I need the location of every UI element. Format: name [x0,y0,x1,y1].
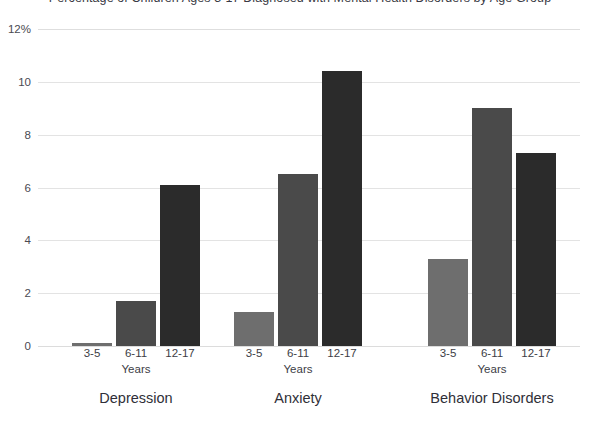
y-axis-tick-label: 12% [8,23,31,35]
age-tick-label: 3-5 [84,347,101,359]
bar [428,259,468,346]
y-axis-tick-label: 2 [25,287,31,299]
age-tick-label: 6-11 [125,347,147,359]
plot-area [38,29,580,346]
age-tick-label: 6-11 [287,347,309,359]
bar-chart: Percentage of Children Ages 3-17 Diagnos… [0,0,600,430]
group-label: Anxiety [274,390,322,406]
years-axis-label: Years [122,363,151,375]
y-axis-tick-label: 0 [25,340,31,352]
chart-title: Percentage of Children Ages 3-17 Diagnos… [0,0,600,5]
years-axis-label: Years [478,363,507,375]
bar [234,312,274,346]
bar [322,71,362,346]
age-tick-labels: 3-56-1112-173-56-1112-173-56-1112-17 [38,347,580,363]
age-tick-label: 12-17 [165,347,194,359]
y-axis-tick-label: 4 [25,234,31,246]
bar [160,185,200,346]
age-tick-label: 3-5 [246,347,263,359]
group-label: Depression [99,390,172,406]
bar [116,301,156,346]
bar [278,174,318,346]
y-axis-tick-label: 10 [18,76,31,88]
y-axis-tick-label: 6 [25,182,31,194]
years-axis-labels: YearsYearsYears [38,363,580,379]
bar [472,108,512,346]
bar [72,343,112,346]
age-tick-label: 6-11 [481,347,503,359]
group-category-labels: DepressionAnxietyBehavior Disorders [38,390,580,412]
age-tick-label: 3-5 [440,347,457,359]
age-tick-label: 12-17 [327,347,356,359]
years-axis-label: Years [284,363,313,375]
group-label: Behavior Disorders [430,390,553,406]
y-axis-tick-label: 8 [25,129,31,141]
y-axis-labels: 024681012% [0,0,38,430]
age-tick-label: 12-17 [521,347,550,359]
bar [516,153,556,346]
bars-layer [38,29,580,346]
